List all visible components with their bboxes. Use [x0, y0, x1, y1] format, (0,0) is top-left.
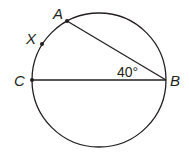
label-c: C [14, 72, 25, 89]
point-a [65, 19, 69, 23]
label-b: B [170, 72, 180, 89]
point-x [40, 42, 44, 46]
circle-diagram: A X C B 40° [0, 0, 189, 158]
label-a: A [52, 5, 63, 22]
angle-label: 40° [117, 64, 138, 80]
label-x: X [25, 30, 37, 47]
point-c [30, 78, 34, 82]
